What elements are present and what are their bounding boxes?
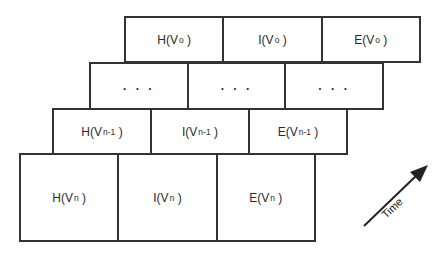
cell-ellipsis-1: . . .	[91, 64, 187, 108]
cell-e-vn: E(Vn )	[216, 155, 314, 240]
cell-e-vn-1: E(Vn-1 )	[248, 110, 346, 153]
var-label: V	[161, 191, 169, 205]
ellipsis: . . .	[221, 79, 253, 93]
ellipsis: . . .	[123, 79, 155, 93]
var-label: V	[266, 33, 274, 47]
cell-ellipsis-2: . . .	[187, 64, 285, 108]
subscript: o	[179, 35, 184, 45]
var-label: V	[94, 125, 102, 139]
var-label: V	[170, 33, 178, 47]
ellipsis: . . .	[318, 79, 350, 93]
var-label: V	[261, 191, 269, 205]
func-label: I	[258, 33, 261, 47]
cell-h-vo: H(Vo )	[126, 18, 222, 61]
func-label: I	[153, 191, 156, 205]
time-label: Time	[379, 195, 405, 220]
subscript: n-1	[103, 127, 115, 137]
func-label: E	[249, 191, 257, 205]
cell-e-vo: E(Vo )	[321, 18, 419, 61]
func-label: H	[52, 191, 61, 205]
subscript: n	[74, 193, 79, 203]
var-label: V	[366, 33, 374, 47]
subscript: o	[275, 35, 280, 45]
cell-i-vn: I(Vn )	[117, 155, 215, 240]
frame-v-o: H(Vo ) I(Vo ) E(Vo )	[124, 16, 421, 63]
cell-i-vn-1: I(Vn-1 )	[150, 110, 248, 153]
var-label: V	[65, 191, 73, 205]
func-label: E	[354, 33, 362, 47]
cell-i-vo: I(Vo )	[222, 18, 320, 61]
func-label: H	[157, 33, 166, 47]
subscript: n-1	[198, 127, 210, 137]
cell-ellipsis-3: . . .	[284, 64, 382, 108]
func-label: H	[81, 125, 90, 139]
subscript: n	[170, 193, 175, 203]
subscript: n-1	[299, 127, 311, 137]
func-label: I	[182, 125, 185, 139]
time-arrow-icon: Time	[360, 160, 436, 230]
frame-v-n: H(Vn ) I(Vn ) E(Vn )	[19, 153, 316, 242]
cell-h-vn-1: H(Vn-1 )	[54, 110, 150, 153]
frame-v-n-1: H(Vn-1 ) I(Vn-1 ) E(Vn-1 )	[52, 108, 348, 155]
func-label: E	[278, 125, 286, 139]
cell-h-vn: H(Vn )	[21, 155, 117, 240]
frame-ellipsis: . . . . . . . . .	[89, 62, 384, 110]
var-label: V	[290, 125, 298, 139]
subscript: n	[270, 193, 275, 203]
var-label: V	[189, 125, 197, 139]
subscript: o	[375, 35, 380, 45]
